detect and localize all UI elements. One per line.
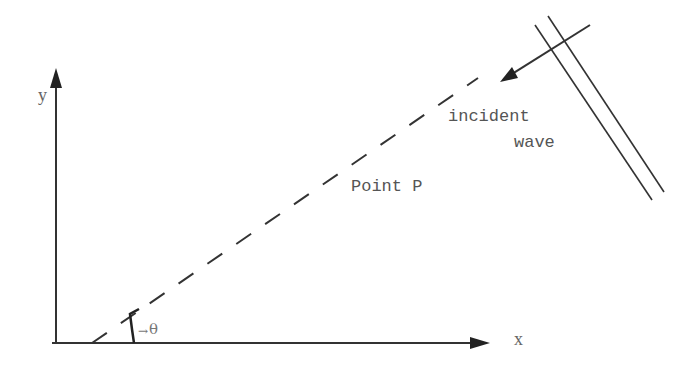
incident-arrowhead-icon — [500, 67, 518, 82]
x-axis-arrowhead-icon — [470, 337, 490, 349]
point-p-label: Point P — [351, 178, 422, 195]
wavefront-line-1 — [535, 25, 652, 200]
dashed-ray-to-point-p — [92, 78, 478, 343]
incident-wave-label-line1: incident — [448, 108, 530, 125]
incident-wave-direction-arrow — [504, 25, 590, 79]
y-axis-arrowhead-icon — [50, 68, 62, 88]
wavefront-line-2 — [548, 16, 664, 192]
incident-wave-label-line2: wave — [514, 134, 555, 151]
y-axis-label: y — [38, 86, 47, 104]
x-axis-label: x — [514, 330, 523, 348]
theta-arrow-icon: → — [138, 325, 148, 337]
theta-label: θ — [149, 322, 158, 337]
diagram-canvas: y x → θ Point P incident wave — [0, 0, 696, 375]
diagram-drawing — [0, 0, 696, 375]
